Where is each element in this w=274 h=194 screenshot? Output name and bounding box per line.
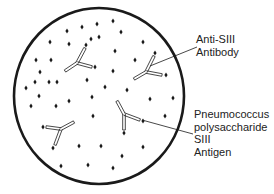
antigen-dot-icon (141, 145, 144, 150)
antigen-dot-icon (99, 144, 102, 149)
antigen-dot-icon (85, 78, 88, 83)
antibody-stem (60, 121, 73, 128)
antibody-arm (46, 128, 61, 130)
antigen-dot-icon (34, 58, 37, 63)
antigen-dot-icon (103, 85, 106, 90)
antibody-arm-cap (54, 145, 56, 146)
bound-antigen-dot-icon (122, 131, 125, 136)
antibody-arm (146, 73, 162, 76)
antigen-dot-icon (111, 69, 114, 74)
free-antigens-group (24, 19, 174, 171)
antigen-dot-icon (119, 30, 122, 35)
diagram-canvas: Anti-SIII Antibody Pneumococcus polysacc… (0, 0, 274, 194)
antigen-dot-icon (89, 37, 92, 42)
antigen-dot-icon (97, 35, 100, 40)
antibody-arm-cap (84, 47, 86, 48)
antigen-dot-icon (95, 22, 98, 27)
antibody-stem-cap (64, 70, 65, 72)
antigen-dot-icon (120, 154, 123, 159)
label-line: Pneumococcus (194, 108, 269, 121)
antigen-dot-icon (49, 58, 52, 63)
antigen-dot-icon (141, 40, 144, 45)
antigen-dot-icon (171, 96, 174, 101)
antigen-dot-icon (54, 104, 57, 109)
antibody-stem (133, 71, 145, 78)
antibody-leader (150, 47, 197, 66)
label-line: SIII (194, 133, 269, 146)
antigen-dot-icon (67, 42, 70, 47)
antigen-dot-icon (125, 88, 128, 93)
antibody-stem-cap (133, 78, 134, 80)
antigen-dot-icon (37, 94, 40, 99)
antigen-dot-icon (47, 80, 50, 85)
antigen-leader (142, 120, 193, 134)
antigen-dot-icon (80, 25, 83, 30)
antigen-dot-icon (111, 19, 114, 24)
antibody-arm (56, 129, 62, 145)
antigen-dot-icon (59, 164, 62, 169)
antibody-arm (124, 113, 140, 119)
bound-antigen-dot-icon (93, 65, 96, 70)
antigen-dot-icon (86, 163, 89, 168)
label-anti-siii-antibody: Anti-SIII Antibody (196, 33, 239, 58)
antibody-arm-cap (140, 119, 141, 121)
antigen-dot-icon (65, 29, 68, 34)
antigen-dot-icon (111, 166, 114, 171)
antibody-stem-cap (73, 121, 74, 123)
antigen-dot-icon (90, 95, 93, 100)
antibody-arm (116, 102, 123, 115)
antibody-arm (118, 100, 125, 113)
antigen-dot-icon (163, 114, 166, 119)
antibody-arm-cap (153, 55, 155, 56)
label-pneumococcus-antigen: Pneumococcus polysaccharide SIII Antigen (194, 108, 269, 158)
antigen-dot-icon (48, 40, 51, 45)
label-line: Anti-SIII (196, 33, 239, 46)
antigen-dot-icon (113, 49, 116, 54)
antibody-2-icon (133, 51, 167, 81)
bound-antigen-dot-icon (51, 146, 54, 151)
antigen-dot-icon (29, 104, 32, 109)
antibody-stem (62, 123, 75, 130)
bound-antigen-dot-icon (84, 43, 87, 48)
bound-antigen-dot-icon (153, 51, 156, 56)
antibody-1-icon (64, 43, 96, 72)
antigen-dot-icon (33, 80, 36, 85)
antigen-dot-icon (91, 114, 94, 119)
antigen-dot-icon (24, 86, 27, 91)
bound-antigen-dot-icon (164, 73, 167, 78)
antibody-arm-cap (116, 100, 118, 101)
bound-antigen-dot-icon (41, 125, 44, 130)
antigen-dot-icon (133, 58, 136, 63)
antigen-dot-icon (148, 97, 151, 102)
antigen-dot-icon (38, 70, 41, 75)
label-line: Antigen (194, 146, 269, 159)
antibody-3-icon (116, 100, 145, 135)
antibody-arm (46, 126, 61, 128)
antibody-arm (124, 115, 140, 121)
label-line: polysaccharide (194, 121, 269, 134)
antibody-arm (54, 129, 60, 145)
antibody-stem (135, 73, 147, 80)
bound-antigen-dot-icon (141, 119, 144, 124)
antibody-arm-cap (92, 66, 93, 69)
antigen-antibody-diagram (0, 0, 274, 194)
antigen-dot-icon (77, 144, 80, 149)
antigen-dot-icon (67, 99, 70, 104)
antigen-dot-icon (55, 80, 58, 85)
label-line: Antibody (196, 46, 239, 59)
antibody-arm (146, 71, 162, 74)
antibody-4-icon (41, 121, 74, 151)
